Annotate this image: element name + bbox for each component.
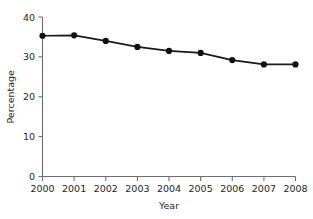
y-tick-label-40: 40: [23, 12, 35, 23]
x-tick-label-2007: 2007: [252, 183, 276, 194]
data-point: [292, 61, 298, 67]
data-point: [103, 38, 109, 44]
data-point: [261, 61, 267, 67]
x-tick-label-2006: 2006: [220, 183, 244, 194]
x-tick-label-2004: 2004: [157, 183, 181, 194]
data-point: [166, 48, 172, 54]
data-point: [71, 32, 77, 38]
chart-figure: 40 30 20 10 0 2000 2001 2002 2003 2004 2…: [0, 0, 313, 219]
line-chart-canvas: 40 30 20 10 0 2000 2001 2002 2003 2004 2…: [0, 0, 313, 219]
x-tick-label-2003: 2003: [125, 183, 149, 194]
x-tick-label-2000: 2000: [30, 183, 54, 194]
y-axis-title: Percentage: [5, 70, 16, 124]
data-point: [134, 44, 140, 50]
x-tick-label-2002: 2002: [94, 183, 118, 194]
data-point: [198, 50, 204, 56]
x-axis-title: Year: [158, 200, 179, 211]
y-tick-label-20: 20: [23, 91, 35, 102]
y-tick-label-30: 30: [23, 51, 35, 62]
x-tick-label-2001: 2001: [62, 183, 86, 194]
x-axis-tick-labels: 2000 2001 2002 2003 2004 2005 2006 2007 …: [30, 183, 307, 194]
data-point: [39, 33, 45, 39]
x-tick-label-2008: 2008: [283, 183, 307, 194]
x-tick-label-2005: 2005: [189, 183, 213, 194]
y-tick-label-10: 10: [23, 131, 35, 142]
y-tick-label-0: 0: [29, 171, 35, 182]
data-point: [229, 57, 235, 63]
